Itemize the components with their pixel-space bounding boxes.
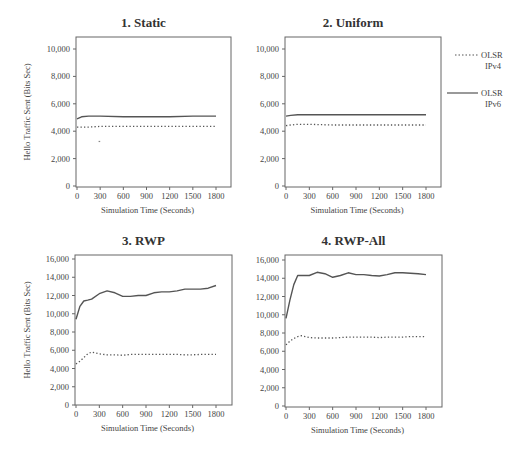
y-tick-label: 10,000 (46, 309, 69, 319)
x-tick-label: 1800 (208, 191, 225, 201)
plot-frame (285, 255, 442, 407)
x-tick-label: 0 (284, 191, 288, 201)
x-tick-label: 300 (93, 409, 106, 419)
chart-title: 2. Uniform (323, 15, 384, 30)
chart-title: 3. RWP (122, 233, 165, 248)
x-tick-label: 1500 (184, 409, 201, 419)
x-tick-label: 1500 (184, 191, 201, 201)
x-tick-label: 1800 (208, 409, 225, 419)
x-tick-label: 1200 (371, 191, 388, 201)
x-tick-label: 1800 (418, 191, 435, 201)
x-axis-label: Simulation Time (Seconds) (310, 205, 403, 215)
x-tick-label: 600 (117, 191, 130, 201)
y-tick-label: 0 (65, 400, 69, 410)
x-tick-label: 1800 (418, 411, 435, 421)
y-tick-label: 8,000 (51, 71, 70, 81)
y-tick-label: 14,000 (46, 272, 69, 282)
y-tick-label: 0 (275, 401, 279, 411)
x-tick-label: 900 (350, 411, 363, 421)
x-tick-label: 1200 (371, 411, 388, 421)
series-ipv4-line (76, 352, 216, 364)
y-tick-label: 10,000 (256, 310, 279, 320)
x-tick-label: 1500 (394, 191, 411, 201)
x-tick-label: 600 (326, 191, 339, 201)
y-tick-label: 6,000 (260, 346, 279, 356)
chart-panel-3: 3. RWP02,0004,0006,0008,00010,00012,0001… (22, 233, 232, 433)
series-ipv4-line (286, 336, 426, 345)
stray-dot (99, 141, 101, 142)
y-tick-label: 14,000 (256, 273, 279, 283)
x-axis-label: Simulation Time (Seconds) (311, 425, 404, 435)
y-axis-label: Hello Traffic Sent (Bits Sec) (22, 281, 32, 378)
legend-ipv4-line1: OLSR (481, 50, 503, 60)
y-tick-label: 2,000 (260, 154, 279, 164)
x-tick-label: 900 (140, 409, 153, 419)
x-tick-label: 1200 (161, 409, 178, 419)
x-tick-label: 0 (75, 191, 79, 201)
legend-ipv4-line2: IPv4 (485, 61, 502, 71)
plot-frame (75, 255, 232, 405)
x-tick-label: 300 (94, 191, 107, 201)
chart-title: 4. RWP-All (322, 233, 386, 248)
x-tick-label: 1200 (161, 191, 178, 201)
x-tick-label: 900 (140, 191, 153, 201)
legend-ipv6-line2: IPv6 (485, 99, 501, 109)
y-tick-label: 16,000 (256, 255, 279, 265)
chart-panel-4: 4. RWP-All02,0004,0006,0008,00010,00012,… (256, 233, 442, 435)
y-tick-label: 6,000 (50, 345, 69, 355)
y-tick-label: 4,000 (260, 365, 279, 375)
y-tick-label: 10,000 (256, 44, 279, 54)
y-tick-label: 16,000 (46, 254, 69, 264)
chart-title: 1. Static (121, 15, 166, 30)
y-tick-label: 8,000 (260, 71, 279, 81)
x-tick-label: 600 (326, 411, 339, 421)
y-tick-label: 0 (275, 181, 279, 191)
y-tick-label: 8,000 (260, 328, 279, 338)
y-tick-label: 6,000 (260, 99, 279, 109)
legend-ipv6-line1: OLSR (481, 88, 503, 98)
x-tick-label: 300 (303, 191, 316, 201)
x-tick-label: 0 (284, 411, 288, 421)
series-ipv6-line (76, 286, 216, 320)
legend: OLSR IPv4 OLSR IPv6 (447, 50, 503, 109)
x-tick-label: 0 (74, 409, 78, 419)
chart-panel-1: 1. Static02,0004,0006,0008,00010,0000300… (22, 15, 231, 215)
x-axis-label: Simulation Time (Seconds) (101, 423, 194, 433)
y-tick-label: 8,000 (50, 327, 69, 337)
y-tick-label: 0 (66, 181, 70, 191)
x-tick-label: 1500 (394, 411, 411, 421)
y-tick-label: 2,000 (51, 154, 70, 164)
x-tick-label: 900 (350, 191, 363, 201)
series-ipv4-line (77, 126, 216, 127)
y-tick-label: 2,000 (260, 383, 279, 393)
series-ipv6-line (77, 116, 216, 119)
x-tick-label: 600 (116, 409, 129, 419)
y-tick-label: 12,000 (46, 291, 69, 301)
series-ipv6-line (286, 272, 426, 318)
figure: 1. Static02,0004,0006,0008,00010,0000300… (0, 0, 519, 461)
y-tick-label: 4,000 (51, 126, 70, 136)
plot-frame (285, 37, 441, 187)
series-ipv4-line (286, 124, 426, 125)
x-axis-label: Simulation Time (Seconds) (101, 205, 194, 215)
y-tick-label: 12,000 (256, 292, 279, 302)
y-tick-label: 4,000 (260, 126, 279, 136)
y-tick-label: 2,000 (50, 382, 69, 392)
plot-frame (76, 37, 231, 187)
y-tick-label: 6,000 (51, 99, 70, 109)
y-tick-label: 10,000 (47, 44, 70, 54)
y-tick-label: 4,000 (50, 364, 69, 374)
chart-panel-2: 2. Uniform02,0004,0006,0008,00010,000030… (256, 15, 441, 215)
x-tick-label: 300 (303, 411, 316, 421)
series-ipv6-line (286, 115, 426, 116)
y-axis-label: Hello Traffic Sent (Bits Sec) (22, 63, 32, 160)
